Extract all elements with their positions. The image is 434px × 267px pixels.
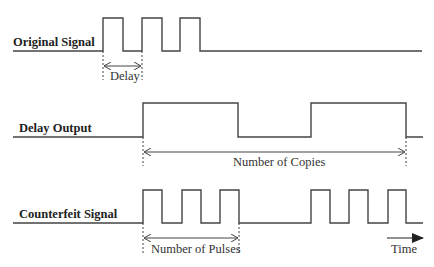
counterfeit-signal-label: Counterfeit Signal [19,207,118,221]
copies-label: Number of Copies [233,155,325,169]
time-label: Time [391,242,417,256]
delay-label: Delay [110,69,141,83]
pulses-label: Number of Pulses [151,242,241,256]
delay-output-row: Delay Output Number of Copies [13,103,423,169]
delay-output-label: Delay Output [19,121,92,135]
original-signal-row: Original Signal Delay [13,18,422,83]
timing-diagram: Original Signal Delay Delay Output Numbe… [0,0,434,267]
counterfeit-signal-row: Counterfeit Signal Number of Pulses Time [13,190,423,256]
original-signal-label: Original Signal [13,35,95,49]
